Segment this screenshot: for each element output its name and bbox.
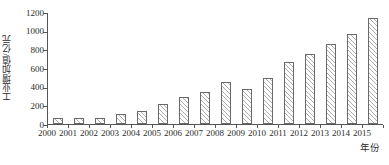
y-axis-tick-label: 1200 [14, 9, 44, 18]
x-axis-tick-label: 2015 [349, 128, 375, 138]
bar [74, 118, 84, 124]
bar [179, 97, 189, 124]
bar [242, 89, 252, 124]
bar [95, 118, 105, 124]
bar [263, 78, 273, 124]
bar [200, 92, 210, 124]
plot-area [47, 13, 383, 125]
bar [347, 34, 357, 124]
bar [53, 118, 63, 124]
y-axis-tick-label: 600 [14, 65, 44, 74]
bar [326, 44, 336, 124]
bar [221, 82, 231, 124]
bar [116, 114, 126, 124]
bar [137, 111, 147, 124]
y-axis-title: 工业增加值/亿元 [1, 14, 15, 122]
x-axis-tick-labels: 2000200120022003200420052006200720082009… [47, 128, 389, 142]
bar [368, 18, 378, 124]
x-axis-title: 年份 [360, 143, 380, 154]
bar [158, 104, 168, 124]
y-axis-tick-labels: 020040060080010001200 [14, 8, 44, 130]
bar-chart: 工业增加值/亿元 020040060080010001200 200020012… [0, 0, 389, 165]
bar-series [47, 13, 383, 124]
bar [284, 62, 294, 124]
y-axis-tick-label: 200 [14, 102, 44, 111]
bar [305, 54, 315, 124]
y-axis-tick-label: 800 [14, 46, 44, 55]
y-axis-tick-label: 1000 [14, 27, 44, 36]
y-axis-tick-label: 400 [14, 83, 44, 92]
